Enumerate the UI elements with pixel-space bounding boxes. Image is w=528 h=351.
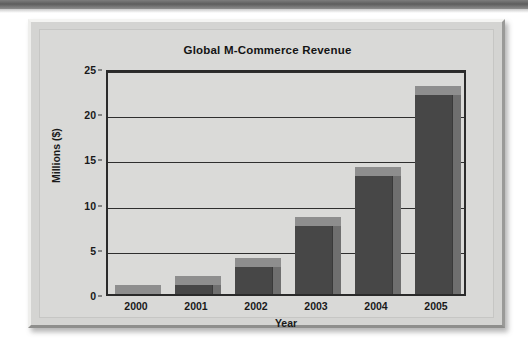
bar-top-face — [235, 258, 281, 267]
bar-top-face — [355, 167, 401, 176]
bar-side-face — [332, 226, 341, 294]
bar-front-face — [235, 267, 273, 294]
x-tick-label-2005: 2005 — [424, 300, 447, 312]
bar-top-face — [115, 285, 161, 294]
x-tick-label-2001: 2001 — [184, 300, 207, 312]
y-tick-mark-10 — [98, 205, 102, 206]
bar-2000 — [115, 285, 161, 294]
bar-front-face — [415, 95, 453, 294]
y-axis-tick-labels: 0510152025 — [40, 70, 102, 296]
x-axis-title: Year — [106, 317, 466, 329]
scan-edge-shadow — [0, 9, 528, 13]
x-tick-label-2000: 2000 — [124, 300, 147, 312]
bar-2005 — [415, 86, 461, 294]
x-tick-label-2004: 2004 — [364, 300, 387, 312]
y-tick-label-20: 20 — [84, 109, 96, 121]
bars-layer — [108, 72, 464, 294]
y-tick-label-25: 25 — [84, 64, 96, 76]
y-tick-label-5: 5 — [90, 245, 96, 257]
scan-edge-band — [0, 0, 528, 9]
y-tick-mark-0 — [98, 296, 102, 297]
x-tick-label-2002: 2002 — [244, 300, 267, 312]
bar-side-face — [392, 176, 401, 294]
chart-figure-frame: Global M-Commerce Revenue Millions ($) 0… — [28, 19, 505, 328]
bar-top-face — [415, 86, 461, 95]
bar-2002 — [235, 258, 281, 294]
bar-2003 — [295, 217, 341, 294]
y-tick-label-0: 0 — [90, 290, 96, 302]
bar-2004 — [355, 167, 401, 294]
bar-side-face — [272, 267, 281, 294]
bar-side-face — [452, 95, 461, 294]
bar-front-face — [295, 226, 333, 294]
y-tick-mark-25 — [98, 70, 102, 71]
y-tick-mark-5 — [98, 250, 102, 251]
bar-front-face — [355, 176, 393, 294]
y-tick-mark-20 — [98, 115, 102, 116]
chart-title: Global M-Commerce Revenue — [40, 44, 495, 56]
y-tick-mark-15 — [98, 160, 102, 161]
x-axis-tick-labels: 200020012002200320042005 — [106, 300, 466, 316]
y-tick-label-15: 15 — [84, 154, 96, 166]
plot-area — [106, 70, 466, 296]
bar-front-face — [175, 285, 213, 294]
bar-top-face — [175, 276, 221, 285]
bar-top-face — [295, 217, 341, 226]
x-tick-label-2003: 2003 — [304, 300, 327, 312]
bar-2001 — [175, 276, 221, 294]
bar-side-face — [212, 285, 221, 294]
chart-figure-inner: Global M-Commerce Revenue Millions ($) 0… — [39, 29, 494, 318]
y-tick-label-10: 10 — [84, 200, 96, 212]
